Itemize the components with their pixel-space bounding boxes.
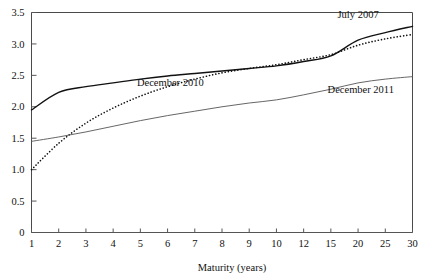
x-tick-label: 30 [407, 238, 418, 249]
y-tick-label: 3.5 [11, 7, 24, 18]
x-tick-label: 3 [83, 238, 88, 249]
x-tick-label: 20 [353, 238, 364, 249]
x-tick-label: 5 [138, 238, 143, 249]
chart-canvas: 123456789101215202530 00.51.01.52.02.53.… [0, 0, 426, 280]
x-axis-title: Maturity (years) [198, 262, 267, 274]
y-tick-label: 2.0 [11, 101, 24, 112]
x-tick-label: 12 [298, 238, 309, 249]
x-tick-label: 15 [326, 238, 337, 249]
y-tick-label: 1.0 [11, 164, 24, 175]
series-label-july-2007: July 2007 [338, 9, 379, 20]
y-tick-label: 3.0 [11, 39, 24, 50]
x-tick-label: 6 [165, 238, 170, 249]
x-tick-label: 10 [271, 238, 282, 249]
y-tick-label: 2.5 [11, 70, 24, 81]
x-tick-label: 1 [29, 238, 34, 249]
x-tick-label: 4 [111, 238, 117, 249]
y-tick-label: 0.5 [11, 196, 24, 207]
x-axis-tick-labels: 123456789101215202530 [29, 238, 418, 249]
yield-curve-chart: 123456789101215202530 00.51.01.52.02.53.… [0, 0, 426, 280]
series-label-december-2011: December 2011 [328, 84, 394, 95]
x-tick-label: 9 [247, 238, 252, 249]
y-tick-label: 0 [19, 227, 24, 238]
series-label-december-2010: December 2010 [137, 77, 204, 88]
y-tick-label: 1.5 [11, 133, 24, 144]
x-tick-label: 7 [192, 238, 197, 249]
x-tick-label: 2 [56, 238, 61, 249]
x-tick-label: 25 [380, 238, 391, 249]
x-tick-label: 8 [219, 238, 224, 249]
